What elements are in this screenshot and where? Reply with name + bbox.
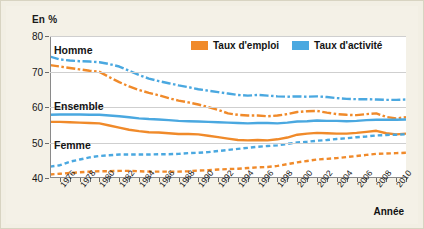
chart-figure: En % 8070605040 197619781980198219841986… [0, 0, 424, 229]
y-axis-tick-label: 80 [32, 31, 43, 42]
gridline [50, 143, 406, 144]
y-axis-tick-label: 50 [32, 137, 43, 148]
y-axis-tick-mark [45, 36, 49, 37]
x-axis-title: Année [373, 206, 404, 217]
y-axis-tick-mark [45, 178, 49, 179]
series-line [50, 122, 406, 140]
chart-card: En % 8070605040 197619781980198219841986… [6, 6, 418, 224]
series-line [50, 57, 406, 100]
y-axis-tick-mark [45, 107, 49, 108]
y-axis-tick-label: 70 [32, 66, 43, 77]
gridline [50, 72, 406, 73]
series-annotation-homme: Homme [54, 44, 93, 56]
legend-swatch-icon [191, 41, 208, 50]
y-axis-tick-label: 60 [32, 102, 43, 113]
legend-item[interactable]: Taux d'emploi [191, 40, 279, 51]
y-axis-tick-label: 40 [32, 173, 43, 184]
gridline [50, 36, 406, 37]
y-axis-tick-mark [45, 72, 49, 73]
legend-label: Taux d'activité [314, 40, 382, 51]
y-axis-tick-labels: 8070605040 [6, 6, 50, 229]
series-annotation-femme: Femme [54, 139, 91, 151]
series-annotation-ensemble: Ensemble [54, 100, 104, 112]
chart-legend: Taux d'emploiTaux d'activité [191, 40, 382, 51]
legend-item[interactable]: Taux d'activité [292, 40, 382, 51]
legend-swatch-icon [292, 41, 309, 50]
legend-label: Taux d'emploi [213, 40, 279, 51]
series-line [50, 114, 406, 123]
y-axis-tick-mark [45, 143, 49, 144]
